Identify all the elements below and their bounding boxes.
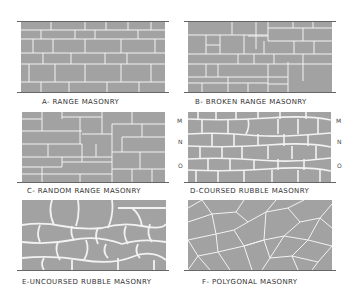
panel-random-range-masonry: [22, 112, 165, 182]
panel-broken-range-masonry: [188, 21, 332, 92]
course-marker-o-left: O: [178, 162, 183, 169]
course-marker-n-left: N: [178, 138, 183, 145]
tick-mark: [184, 21, 336, 22]
tick-mark: [17, 92, 169, 93]
course-marker-m-left: M: [177, 117, 182, 124]
caption-random-range-masonry: C- RANDOM RANGE MASONRY: [27, 187, 141, 195]
course-marker-o-right: O: [337, 162, 342, 169]
course-marker-n-right: N: [337, 138, 342, 145]
caption-range-masonry: A- RANGE MASONRY: [42, 98, 119, 106]
course-marker-m-right: M: [336, 117, 341, 124]
tick-mark: [17, 21, 169, 22]
caption-coursed-rubble-masonry: D-COURSED RUBBLE MASONRY: [190, 187, 309, 195]
broken-range-masonry-pattern: [188, 21, 332, 92]
range-masonry-pattern: [21, 21, 165, 92]
caption-uncoursed-rubble-masonry: E-UNCOURSED RUBBLE MASONRY: [22, 278, 151, 286]
uncoursed-rubble-masonry-pattern: [22, 200, 166, 270]
coursed-rubble-masonry-pattern: [188, 112, 331, 182]
tick-mark: [17, 182, 169, 183]
panel-polygonal-masonry: [188, 200, 332, 270]
panel-range-masonry: [21, 21, 165, 92]
tick-mark: [184, 92, 336, 93]
caption-polygonal-masonry: F- POLYGONAL MASONRY: [202, 278, 298, 286]
caption-broken-range-masonry: B- BROKEN RANGE MASONRY: [195, 98, 307, 106]
tick-mark: [17, 270, 169, 271]
tick-mark: [184, 270, 336, 271]
polygonal-masonry-pattern: [188, 200, 332, 270]
tick-mark: [184, 182, 336, 183]
panel-coursed-rubble-masonry: [188, 112, 331, 182]
random-range-masonry-pattern: [22, 112, 165, 182]
panel-uncoursed-rubble-masonry: [22, 200, 166, 270]
